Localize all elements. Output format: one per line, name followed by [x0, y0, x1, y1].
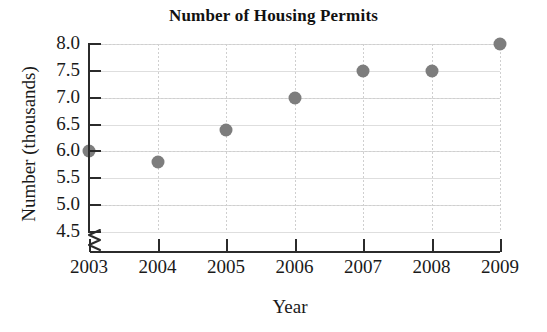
- x-axis-tick-label: 2003: [54, 256, 124, 278]
- gridline-horizontal: [89, 232, 500, 233]
- y-axis-tick-label: 7.5: [36, 59, 80, 81]
- data-point: [357, 64, 370, 77]
- gridline-vertical: [500, 44, 501, 232]
- y-axis-tick-label: 5.5: [36, 166, 80, 188]
- x-axis-tick: [363, 239, 365, 252]
- y-axis-tick: [90, 43, 101, 45]
- x-axis-tick: [158, 239, 160, 252]
- y-axis-tick: [90, 177, 101, 179]
- x-axis-tick: [500, 239, 502, 252]
- y-axis-tick-label: 6.5: [36, 113, 80, 135]
- gridline-vertical: [226, 44, 227, 232]
- gridline-vertical: [295, 44, 296, 232]
- data-point: [220, 123, 233, 136]
- x-axis-tick: [226, 239, 228, 252]
- gridline-vertical: [158, 44, 159, 232]
- x-axis-tick-label: 2005: [191, 256, 261, 278]
- data-point: [425, 64, 438, 77]
- x-axis-title: Year: [90, 296, 490, 318]
- y-axis-tick: [90, 150, 101, 152]
- x-axis-tick-label: 2008: [397, 256, 467, 278]
- y-axis-tick: [90, 124, 101, 126]
- x-axis-tick-label: 2006: [260, 256, 330, 278]
- data-point: [151, 156, 164, 169]
- y-axis-tick-label: 4.5: [36, 220, 80, 242]
- y-axis-tick-label: 5.0: [36, 193, 80, 215]
- y-axis-tick: [90, 97, 101, 99]
- x-axis-tick-label: 2009: [465, 256, 535, 278]
- chart-figure: Number of Housing Permits Number (thousa…: [0, 0, 547, 332]
- y-axis-tick-label: 7.0: [36, 86, 80, 108]
- axis-break-icon: [78, 228, 106, 256]
- x-axis-tick-label: 2004: [123, 256, 193, 278]
- y-axis-tick: [90, 70, 101, 72]
- x-axis-tick: [432, 239, 434, 252]
- plot-area: [89, 44, 500, 232]
- y-axis-tick: [90, 204, 101, 206]
- y-axis-tick-label: 6.0: [36, 139, 80, 161]
- x-axis-tick: [295, 239, 297, 252]
- data-point: [288, 91, 301, 104]
- x-axis-tick-label: 2007: [328, 256, 398, 278]
- chart-title: Number of Housing Permits: [0, 6, 547, 26]
- y-axis-tick-label: 8.0: [36, 32, 80, 54]
- data-point: [494, 38, 507, 51]
